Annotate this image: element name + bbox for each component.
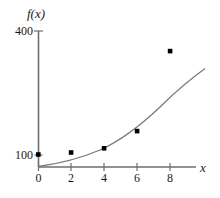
- x-tick-label-4: 4: [101, 171, 107, 185]
- x-tick-label-8: 8: [167, 171, 173, 185]
- data-point-marker: [69, 150, 74, 155]
- scatter-plot: f(x) x 400 100 0 2 4 6 8: [0, 0, 220, 198]
- x-tick-label-0: 0: [36, 171, 42, 185]
- y-axis-label: f(x): [27, 6, 45, 21]
- y-tick-label-400: 400: [15, 24, 33, 38]
- chart-figure: f(x) x 400 100 0 2 4 6 8: [0, 0, 220, 198]
- data-point-marker: [135, 129, 140, 134]
- data-point-marker: [36, 152, 41, 157]
- fitted-curve: [39, 69, 206, 167]
- data-point-marker: [168, 49, 173, 54]
- x-tick-label-2: 2: [68, 171, 74, 185]
- x-axis-label: x: [199, 160, 206, 175]
- data-point-marker: [102, 146, 107, 151]
- y-tick-label-100: 100: [15, 148, 33, 162]
- x-tick-label-6: 6: [134, 171, 140, 185]
